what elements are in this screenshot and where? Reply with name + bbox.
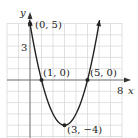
point-label-5-0: (5, 0): [90, 67, 117, 78]
y-axis-arrow-icon: [28, 12, 33, 19]
point-label-vertex: (3, −4): [67, 124, 102, 135]
x-axis-label: x: [128, 85, 134, 96]
point-label-0-5: (0, 5): [35, 19, 62, 30]
x-tick-8: 8: [117, 85, 123, 96]
y-tick-3: 3: [21, 42, 27, 53]
parabola-chart: y x 8 3 (0, 5) (1, 0) (5, 0) (3, −4): [0, 0, 138, 138]
point-label-1-0: (1, 0): [43, 67, 70, 78]
x-axis-arrow-icon: [124, 78, 131, 83]
y-axis-label: y: [19, 7, 26, 18]
